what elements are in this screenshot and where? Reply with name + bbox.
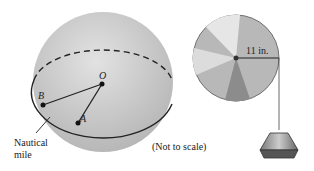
radius-label: 11 in. [246,45,268,56]
nautical-label: Nautical [14,137,48,148]
pulley-disk [193,15,279,130]
not-to-scale-note: (Not to scale) [152,141,206,152]
weight [260,133,298,158]
point-b-label: B [38,90,44,101]
point-o-label: O [99,70,106,81]
mile-label: mile [14,149,32,160]
sphere [32,12,173,152]
point-a-label: A [80,113,86,124]
